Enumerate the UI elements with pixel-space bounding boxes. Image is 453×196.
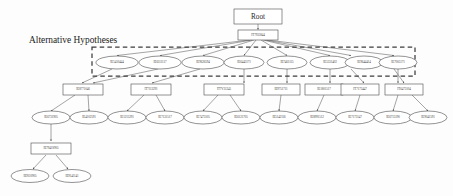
node-hypothesis-2-label: IE9626594 xyxy=(196,60,210,64)
node-leaf-9-label: IE6715190 xyxy=(386,115,400,119)
node-level1-0-label: IT7935844 xyxy=(251,33,265,37)
node-leaf-6-label: IE5142116 xyxy=(272,115,286,119)
node-leaf-8-label: IE7173147 xyxy=(348,115,362,119)
node-hypothesis-2[interactable]: IE9626594 xyxy=(182,56,224,69)
node-level3-0[interactable]: IE8771046 xyxy=(63,84,103,95)
node-hypothesis-5[interactable]: IE5331402 xyxy=(310,56,350,69)
node-level1-0[interactable]: IT7935844 xyxy=(238,30,278,40)
node-root-label: Root xyxy=(251,13,265,21)
node-leaf-6[interactable]: IE5142116 xyxy=(260,111,298,124)
node-leaf-7[interactable]: IE8991512 xyxy=(298,111,336,124)
node-level3-4-label: IE1801517 xyxy=(317,87,331,91)
node-hypothesis-7-label: IE7005171 xyxy=(391,60,405,64)
node-level3-3-label: IE9751711 xyxy=(274,87,288,91)
node-level3-5-label: IT7173447 xyxy=(353,87,367,91)
node-level3-2-label: IT7V31245 xyxy=(217,87,231,91)
node-leaf-0-label: IE6731905 xyxy=(44,115,58,119)
node-level3-6-label: IT6473104 xyxy=(397,87,411,91)
node-leaf-7-label: IE8991512 xyxy=(310,115,324,119)
node-leaf-10-label: IE9041591 xyxy=(421,115,435,119)
node-root[interactable]: Root xyxy=(234,9,282,24)
node-leaf-4[interactable]: IE7473105 xyxy=(184,111,222,124)
node-leaf-9[interactable]: IE6715190 xyxy=(374,111,412,124)
edge-group-hypotheses xyxy=(117,40,394,56)
node-level3-4[interactable]: IE1801517 xyxy=(305,84,343,95)
node-hypothesis-1-label: IE6111117 xyxy=(154,60,167,64)
node-level3-0-label: IE8771046 xyxy=(76,87,90,91)
node-hypothesis-1[interactable]: IE6111117 xyxy=(139,56,181,69)
node-level3-5[interactable]: IT7173447 xyxy=(341,84,379,95)
node-hypothesis-0-label: IE5410444 xyxy=(110,60,124,64)
node-hypothesis-3[interactable]: IE6443171 xyxy=(224,56,264,69)
node-level3-1-label: IT7113291 xyxy=(144,87,158,91)
node-level3-1[interactable]: IT7113291 xyxy=(131,84,171,95)
node-hypothesis-3-label: IE6443171 xyxy=(237,60,251,64)
node-subtree-child-0[interactable]: IE9110905 xyxy=(11,170,49,183)
node-subtree-parent-label: IE7941S905 xyxy=(44,146,59,150)
page-title: Alternative Hypotheses xyxy=(29,35,118,45)
hypothesis-tree-graph: Alternative Hypotheses Root IT7935844 IE… xyxy=(0,0,453,196)
node-level3-3[interactable]: IE9751711 xyxy=(262,84,300,95)
node-hypothesis-4-label: IE7461115 xyxy=(280,60,294,64)
node-subtree-child-1[interactable]: IE9141141 xyxy=(53,170,91,183)
node-hypothesis-6[interactable]: IE9644414 xyxy=(345,56,383,69)
node-subtree-child-0-label: IE9110905 xyxy=(23,174,37,178)
node-leaf-3-label: IE7131517 xyxy=(158,115,172,119)
node-leaf-5-label: IE6121705 xyxy=(234,115,248,119)
node-level3-6[interactable]: IT6473104 xyxy=(385,84,423,95)
node-hypothesis-0[interactable]: IE5410444 xyxy=(96,56,138,69)
node-leaf-1[interactable]: IE4102591 xyxy=(70,111,108,124)
node-subtree-child-1-label: IE9141141 xyxy=(65,174,79,178)
node-leaf-8[interactable]: IE7173147 xyxy=(336,111,374,124)
node-leaf-1-label: IE4102591 xyxy=(82,115,96,119)
node-leaf-5[interactable]: IE6121705 xyxy=(222,111,260,124)
diagram-canvas: Alternative Hypotheses Root IT7935844 IE… xyxy=(0,0,453,196)
node-level3-2[interactable]: IT7V31245 xyxy=(204,84,244,95)
edge-group-level4 xyxy=(51,95,428,111)
node-subtree-parent[interactable]: IE7941S905 xyxy=(31,143,71,154)
node-hypothesis-7[interactable]: IE7005171 xyxy=(379,56,417,69)
node-hypothesis-5-label: IE5331402 xyxy=(323,60,337,64)
node-leaf-3[interactable]: IE7131517 xyxy=(146,111,184,124)
node-leaf-2[interactable]: IE1215291 xyxy=(108,111,146,124)
node-leaf-0[interactable]: IE6731905 xyxy=(32,111,70,124)
node-leaf-4-label: IE7473105 xyxy=(196,115,210,119)
node-leaf-2-label: IE1215291 xyxy=(120,115,134,119)
node-leaf-10[interactable]: IE9041591 xyxy=(409,111,447,124)
node-hypothesis-6-label: IE9644414 xyxy=(357,60,371,64)
node-hypothesis-4[interactable]: IE7461115 xyxy=(267,56,307,69)
